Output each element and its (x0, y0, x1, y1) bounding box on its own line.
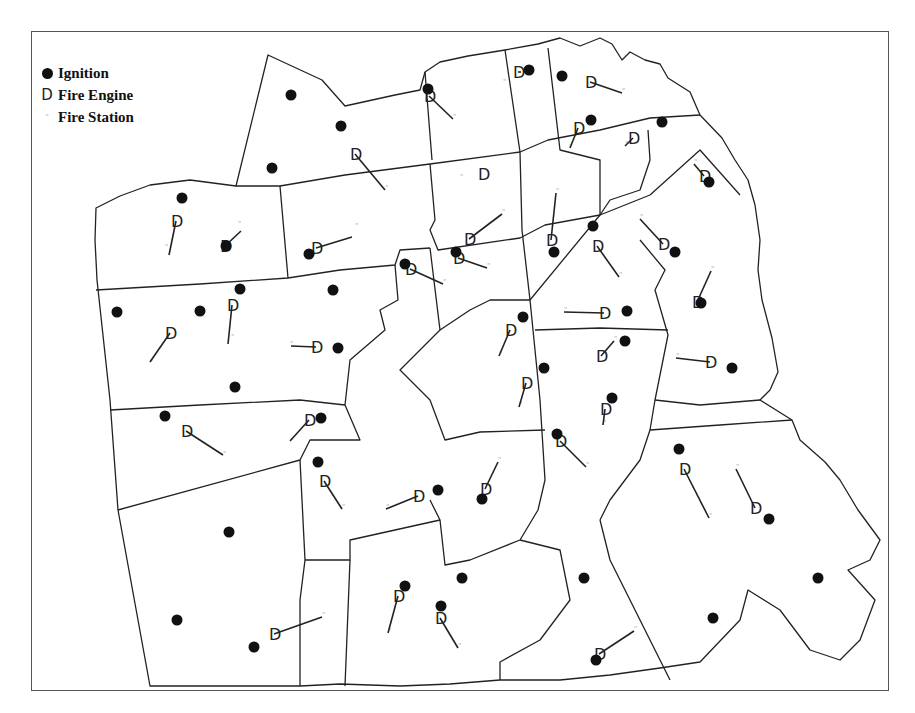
legend-label: Fire Engine (58, 84, 133, 106)
ignition-marker (813, 573, 824, 584)
ignition-marker (557, 71, 568, 82)
city-outline (95, 38, 880, 686)
district-line (600, 240, 668, 520)
fire-engine-icon: D (585, 73, 597, 92)
fire-engine-marker: D (435, 609, 458, 648)
fire-station-marker: " (634, 625, 637, 633)
fire-engine-icon: D (38, 84, 56, 106)
legend-item-ignition: Ignition (38, 62, 134, 84)
ignition-marker (286, 90, 297, 101)
ignition-marker (423, 84, 434, 95)
fire-engine-icon: D (478, 165, 490, 184)
ignition-marker (477, 494, 488, 505)
ignition-marker (696, 298, 707, 309)
fire-engine-icon: D (750, 499, 762, 518)
fire-station-marker: " (342, 503, 345, 511)
district-line (600, 520, 670, 680)
fire-station-marker: " (386, 503, 389, 511)
fire-engine-icon: D (435, 609, 447, 628)
fire-engine-marker: D (169, 212, 183, 255)
district-line (430, 230, 545, 565)
ignition-marker (579, 573, 590, 584)
ignition-marker (224, 527, 235, 538)
ignition-marker (518, 312, 529, 323)
fire-engine-marker: D (592, 237, 619, 277)
fire-station-marker: " (460, 173, 463, 181)
fire-engine-icon: D (227, 296, 239, 315)
fire-engine-marker: D (499, 321, 517, 356)
ignition-marker (764, 514, 775, 525)
ignition-marker (591, 655, 602, 666)
ignition-marker (588, 221, 599, 232)
district-line (300, 460, 305, 686)
fire-engine-marker: D (150, 324, 177, 362)
ignition-marker (622, 306, 633, 317)
ignition-marker (328, 285, 339, 296)
fire-station-marker: " (322, 611, 325, 619)
fire-engine-icon: D (165, 324, 177, 343)
dispatch-line (564, 312, 604, 313)
ignition-marker (313, 457, 324, 468)
fire-engine-marker: D (478, 165, 490, 184)
fire-station-marker: " (502, 208, 505, 216)
ignition-marker (400, 259, 411, 270)
fire-engine-icon: D (505, 321, 517, 340)
district-line (96, 248, 430, 290)
map-legend: Ignition D Fire Engine " Fire Station (38, 62, 134, 128)
fire-engine-marker: D (676, 353, 717, 372)
ignition-marker (708, 613, 719, 624)
district-line (118, 265, 398, 510)
fire-station-marker: " (487, 262, 490, 270)
fire-engine-icon: D (628, 129, 640, 148)
fire-engine-marker: D (386, 487, 425, 509)
fire-engine-icon: D (705, 353, 717, 372)
ignition-marker (249, 642, 260, 653)
fire-engine-marker: D (319, 472, 342, 509)
fire-station-marker: " (503, 78, 506, 86)
ignition-marker (177, 193, 188, 204)
fire-engine-icon: D (269, 625, 281, 644)
ignition-icon (38, 68, 56, 79)
fire-engine-marker: D (269, 617, 322, 644)
ignition-marker (457, 573, 468, 584)
district-line (500, 540, 570, 680)
fire-engine-marker: D (291, 338, 323, 357)
ignition-marker (235, 284, 246, 295)
district-line (650, 420, 792, 430)
ignition-marker (552, 429, 563, 440)
fire-engine-marker: D (388, 587, 405, 633)
fire-station-marker: " (709, 512, 712, 520)
fire-engine-marker: D (585, 73, 622, 93)
ignition-marker (704, 177, 715, 188)
district-line (655, 400, 760, 405)
ignition-marker (221, 241, 232, 252)
fire-engine-icon: D (658, 235, 670, 254)
ignition-marker (112, 307, 123, 318)
fire-station-marker: " (586, 461, 589, 469)
district-boundaries (95, 38, 880, 686)
fire-engine-icon: D (311, 338, 323, 357)
legend-label: Ignition (58, 62, 109, 84)
fire-engine-icon: D (350, 145, 362, 164)
district-line (280, 186, 288, 278)
ignition-marker (524, 65, 535, 76)
fire-station-marker: " (619, 271, 622, 279)
ignition-marker (620, 336, 631, 347)
fire-station-marker: " (622, 87, 625, 95)
ignition-marker (160, 411, 171, 422)
fire-engine-marker: D (596, 341, 614, 366)
fire-engine-marker: D (290, 411, 316, 441)
ignition-marker (607, 393, 618, 404)
fire-engine-icon: D (573, 119, 585, 138)
fire-engine-marker: D (181, 422, 223, 455)
ignition-marker (436, 601, 447, 612)
fire-engine-marker: D (679, 460, 709, 518)
fire-engine-marker: D (311, 237, 352, 258)
fire-engine-icon: D (521, 374, 533, 393)
fire-station-icon: " (38, 106, 56, 128)
fire-station-marker: " (355, 222, 358, 230)
fire-engine-marker: D (350, 145, 385, 190)
fire-engine-icon: D (304, 411, 316, 430)
ignition-marker (549, 247, 560, 258)
legend-item-fire-engine: D Fire Engine (38, 84, 134, 106)
